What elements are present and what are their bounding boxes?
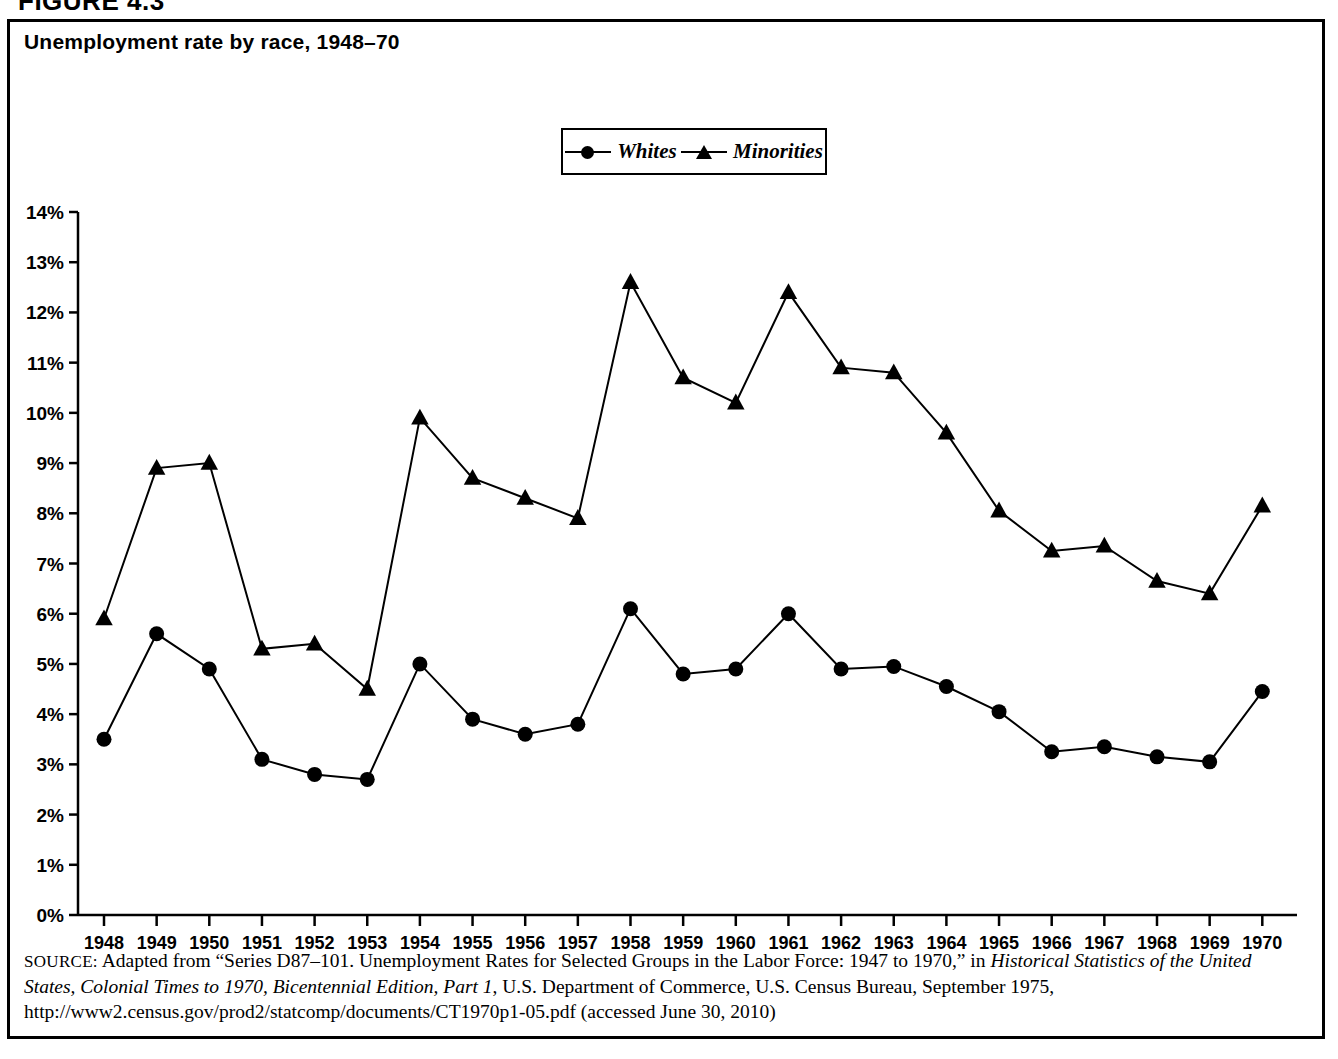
data-point-marker xyxy=(201,454,218,470)
data-point-marker xyxy=(412,656,427,671)
y-axis-tick-label: 12% xyxy=(26,302,64,323)
y-axis-tick-label: 9% xyxy=(37,453,65,474)
data-point-marker xyxy=(254,752,269,767)
data-point-marker xyxy=(781,606,796,621)
source-prefix: SOURCE: xyxy=(24,952,98,971)
y-axis-tick-label: 13% xyxy=(26,252,64,273)
line-chart-svg: 0%1%2%3%4%5%6%7%8%9%10%11%12%13%14%19481… xyxy=(0,0,1318,1020)
data-point-marker xyxy=(834,661,849,676)
y-axis-tick-label: 10% xyxy=(26,403,64,424)
y-axis-tick-label: 2% xyxy=(37,805,65,826)
series-line-minorities xyxy=(104,282,1262,689)
data-point-marker xyxy=(727,394,744,410)
data-point-marker xyxy=(1202,754,1217,769)
data-point-marker xyxy=(307,767,322,782)
y-axis-tick-label: 7% xyxy=(37,554,65,575)
series-line-whites xyxy=(104,609,1262,780)
y-axis-tick-label: 1% xyxy=(37,855,65,876)
data-point-marker xyxy=(992,704,1007,719)
data-point-marker xyxy=(465,712,480,727)
figure-page: FIGURE 4.3 Unemployment rate by race, 19… xyxy=(0,0,1338,1059)
y-axis-tick-label: 4% xyxy=(37,704,65,725)
data-point-marker xyxy=(832,358,849,374)
y-axis-tick-label: 6% xyxy=(37,604,65,625)
y-axis-tick-label: 8% xyxy=(37,503,65,524)
y-axis-tick-label: 5% xyxy=(37,654,65,675)
data-point-marker xyxy=(939,679,954,694)
data-point-marker xyxy=(570,717,585,732)
data-point-marker xyxy=(359,680,376,696)
data-point-marker xyxy=(1096,537,1113,553)
data-point-marker xyxy=(1044,744,1059,759)
source-note: SOURCE: Adapted from “Series D87–101. Un… xyxy=(24,948,1296,1024)
plot-area: 0%1%2%3%4%5%6%7%8%9%10%11%12%13%14%19481… xyxy=(0,0,1318,1020)
data-point-marker xyxy=(780,283,797,299)
y-axis-tick-label: 3% xyxy=(37,754,65,775)
data-point-marker xyxy=(623,601,638,616)
data-point-marker xyxy=(1097,739,1112,754)
y-axis-tick-label: 11% xyxy=(27,353,64,374)
data-point-marker xyxy=(990,502,1007,518)
data-point-marker xyxy=(97,732,112,747)
y-axis-tick-label: 14% xyxy=(26,202,64,223)
data-point-marker xyxy=(676,666,691,681)
y-axis-tick-label: 0% xyxy=(37,905,65,926)
data-point-marker xyxy=(411,409,428,425)
data-point-marker xyxy=(622,273,639,289)
data-point-marker xyxy=(728,661,743,676)
data-point-marker xyxy=(95,610,112,626)
source-text-a: Adapted from “Series D87–101. Unemployme… xyxy=(98,950,990,971)
data-point-marker xyxy=(1254,497,1271,513)
data-point-marker xyxy=(886,659,901,674)
data-point-marker xyxy=(202,661,217,676)
data-point-marker xyxy=(518,727,533,742)
data-point-marker xyxy=(360,772,375,787)
data-point-marker xyxy=(674,369,691,385)
data-point-marker xyxy=(1255,684,1270,699)
data-point-marker xyxy=(1148,572,1165,588)
data-point-marker xyxy=(306,635,323,651)
data-point-marker xyxy=(1150,749,1165,764)
data-point-marker xyxy=(149,626,164,641)
